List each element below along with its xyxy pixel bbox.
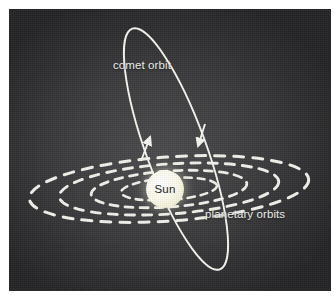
comet-orbit-label: comet orbit — [113, 59, 171, 71]
sun-label: Sun — [154, 183, 175, 195]
sun-body: Sun — [146, 170, 184, 208]
sky-background: Sun comet orbit planetary orbits — [9, 9, 331, 291]
orbit-scene — [9, 9, 331, 291]
comet-orbit-path — [104, 18, 248, 279]
comet-orbit-group — [104, 18, 248, 279]
planetary-orbits-label: planetary orbits — [205, 208, 285, 220]
comet-orbit-diagram: Sun comet orbit planetary orbits — [0, 0, 334, 304]
